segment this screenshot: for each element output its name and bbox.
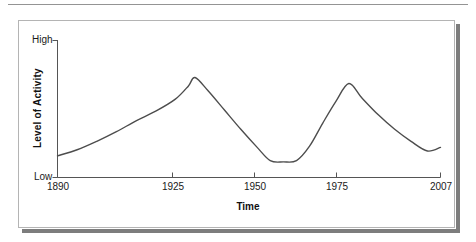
x-axis-ticks bbox=[58, 173, 441, 178]
x-tick-label-1975: 1975 bbox=[316, 181, 358, 192]
chart-axes bbox=[58, 40, 441, 178]
line-chart: High Low Level of Activity 1890 1925 195… bbox=[0, 0, 476, 242]
y-axis-high-label: High bbox=[32, 34, 53, 45]
x-tick-label-1925: 1925 bbox=[152, 181, 194, 192]
x-axis-title: Time bbox=[158, 201, 338, 212]
x-tick-label-1890: 1890 bbox=[37, 181, 79, 192]
y-axis-ticks bbox=[53, 41, 58, 178]
y-axis-title: Level of Activity bbox=[32, 68, 43, 148]
x-tick-label-1950: 1950 bbox=[234, 181, 276, 192]
x-tick-label-2007: 2007 bbox=[420, 181, 462, 192]
activity-line-series bbox=[58, 77, 441, 162]
